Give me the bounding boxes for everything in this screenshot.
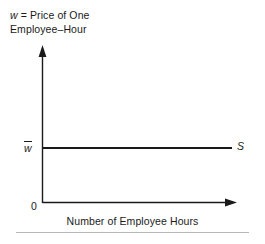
- supply-curve-label: S: [237, 140, 244, 152]
- wage-level-label: w: [24, 141, 32, 154]
- x-axis-caption: Number of Employee Hours: [0, 215, 265, 227]
- origin-label: 0: [31, 200, 37, 212]
- wage-level-label-text: w: [24, 141, 32, 154]
- bottom-divider: [16, 232, 249, 233]
- x-axis-arrowhead-icon: [225, 199, 237, 207]
- axes-and-curve: [0, 0, 265, 244]
- y-axis-arrowhead-icon: [39, 45, 47, 57]
- supply-curve-figure: w = Price of One Employee–Hour w S 0 Num…: [0, 0, 265, 244]
